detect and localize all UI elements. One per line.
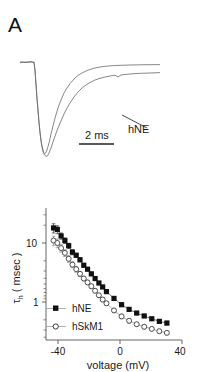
- y-tick-label-1: 1: [33, 297, 39, 308]
- data-point: [119, 302, 124, 307]
- data-point: [134, 322, 139, 327]
- data-point: [77, 257, 82, 262]
- svg-text:τh ( msec ): τh ( msec ): [10, 252, 24, 303]
- data-point: [142, 324, 147, 329]
- data-point: [66, 243, 71, 248]
- x-axis-ticks: [58, 340, 182, 344]
- legend-item-hne[interactable]: hNE: [46, 303, 92, 314]
- x-tick-label-0: 0: [117, 346, 123, 357]
- panel-b-chart: 10 1 -40 0 40 voltage (mV) τh ( msec ): [0, 186, 198, 372]
- x-axis-title: voltage (mV): [87, 359, 149, 371]
- data-point: [127, 307, 132, 312]
- legend-label-hne: hNE: [72, 303, 92, 314]
- data-point: [85, 267, 90, 272]
- series-line: [54, 228, 167, 323]
- data-point: [89, 271, 94, 276]
- data-point: [93, 288, 98, 293]
- data-point: [149, 326, 154, 331]
- data-point: [62, 250, 67, 255]
- data-point: [119, 314, 124, 319]
- data-point: [164, 320, 169, 325]
- data-point: [70, 262, 75, 267]
- data-point: [149, 316, 154, 321]
- data-point: [157, 329, 162, 334]
- data-point: [96, 293, 101, 298]
- y-axis-ticks: [42, 243, 46, 302]
- data-point: [59, 246, 64, 251]
- data-point: [112, 308, 117, 313]
- data-point: [59, 233, 64, 238]
- data-point: [93, 276, 98, 281]
- series-hne: [51, 224, 170, 326]
- scalebar-label: 2 ms: [85, 129, 109, 141]
- data-point: [89, 284, 94, 289]
- data-point: [134, 310, 139, 315]
- current-trace-slow: [20, 62, 160, 156]
- data-point: [142, 313, 147, 318]
- data-point: [164, 330, 169, 335]
- data-point: [100, 284, 105, 289]
- y-axis-title: τh ( msec ): [10, 252, 24, 303]
- data-point: [104, 301, 109, 306]
- panel-a: A hNE 2 ms: [0, 0, 198, 186]
- panel-a-traces: hNE 2 ms: [0, 0, 198, 186]
- data-point: [55, 241, 60, 246]
- data-point: [66, 256, 71, 261]
- data-series-layer: [51, 224, 170, 336]
- data-point: [111, 296, 116, 301]
- data-point: [157, 319, 162, 324]
- data-point: [78, 271, 83, 276]
- figure-container: A hNE 2 ms B: [0, 0, 198, 372]
- data-point: [55, 227, 60, 232]
- panel-b: B: [0, 186, 198, 372]
- y-axis-title-units: ( msec ): [10, 252, 22, 292]
- x-tick-label-minus40: -40: [51, 346, 66, 357]
- data-point: [127, 318, 132, 323]
- x-tick-label-40: 40: [174, 346, 186, 357]
- data-point: [74, 253, 79, 258]
- data-point: [104, 289, 109, 294]
- chart-legend: hNE hSkM1: [46, 303, 104, 332]
- trace-label-hne: hNE: [128, 123, 149, 135]
- data-point: [62, 238, 67, 243]
- y-tick-label-10: 10: [26, 238, 38, 249]
- legend-item-hskm1[interactable]: hSkM1: [46, 321, 104, 332]
- data-point: [81, 276, 86, 281]
- legend-label-hskm1: hSkM1: [72, 321, 104, 332]
- data-point: [74, 267, 79, 272]
